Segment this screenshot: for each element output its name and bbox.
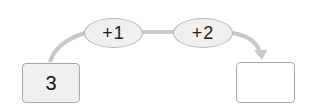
start-value: 3: [45, 72, 56, 95]
result-answer-box[interactable]: [236, 62, 295, 103]
operation-oval-2: +2: [173, 18, 233, 48]
start-value-box: 3: [22, 63, 80, 103]
connector-start-to-op1: [50, 33, 85, 62]
operation-label-1: +1: [102, 23, 125, 44]
arrowhead-icon: [254, 50, 267, 60]
operation-oval-1: +1: [84, 18, 143, 48]
operation-label-2: +2: [192, 23, 215, 44]
connector-op2-to-end: [232, 33, 260, 52]
